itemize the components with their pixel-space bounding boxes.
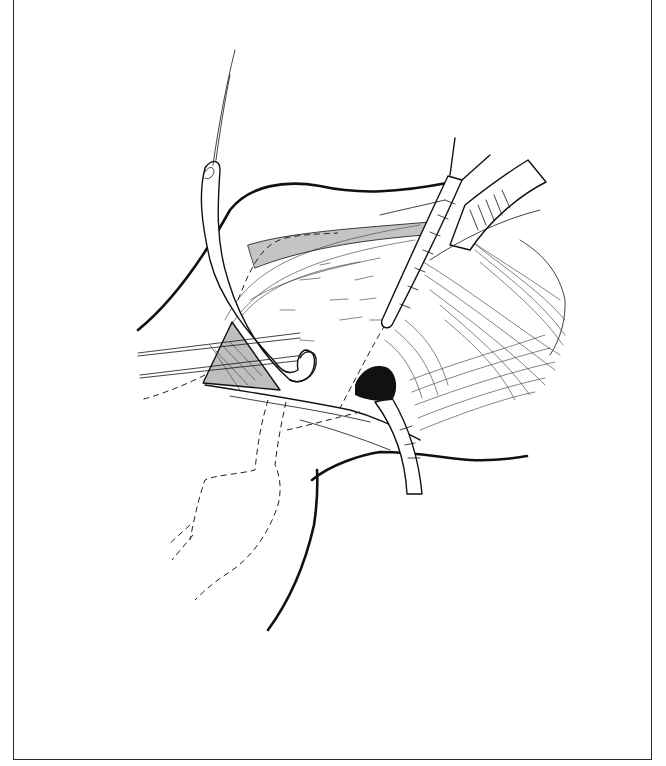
dashed-outline-lower-right xyxy=(195,402,286,600)
dashed-outline-lower-left xyxy=(190,400,268,540)
dashed-outline-branch xyxy=(168,525,193,560)
incision-edge-inner xyxy=(230,396,370,422)
lower-retractor xyxy=(375,398,422,494)
surgical-illustration xyxy=(0,0,666,766)
dashed-outline-horizontal xyxy=(287,412,360,430)
forceps-shaft-top xyxy=(450,138,490,180)
suture-thread-2 xyxy=(216,75,230,160)
upper-tissue-band xyxy=(248,222,430,268)
incision-edge-lower xyxy=(300,420,390,450)
dashed-outline-leftside xyxy=(140,375,205,400)
dark-opening xyxy=(355,366,396,401)
left-skin-contour xyxy=(268,470,317,630)
